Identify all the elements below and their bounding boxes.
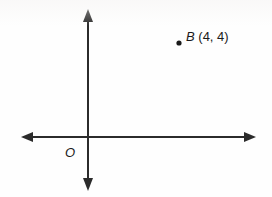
point-b-name: B (186, 29, 195, 44)
arrow-up-icon (83, 9, 93, 22)
point-b-label: B (4, 4) (186, 30, 229, 43)
coordinate-plane-figure: O B (4, 4) (0, 0, 272, 197)
axes-svg (0, 0, 272, 197)
point-b-dot-icon (176, 40, 181, 45)
arrow-down-icon (83, 178, 93, 191)
arrow-right-icon (244, 132, 256, 142)
point-b-coordinates: (4, 4) (198, 29, 228, 44)
origin-label: O (65, 146, 75, 159)
arrow-left-icon (21, 132, 33, 142)
